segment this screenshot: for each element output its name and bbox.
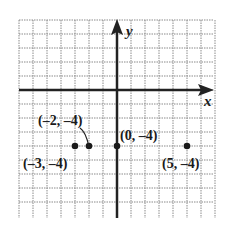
y-axis-label: y <box>124 23 133 39</box>
point-label-0: (0, –4) <box>120 128 158 144</box>
point-label-5: (5, –4) <box>162 156 200 172</box>
data-point <box>184 143 191 150</box>
point-label-neg3: (–3, –4) <box>23 156 68 172</box>
data-point <box>72 143 79 150</box>
x-axis-label: x <box>203 93 212 109</box>
coordinate-plane: x y (–2, –4) (0, –4) (–3, –4) (5, –4) <box>0 0 227 226</box>
data-point <box>114 143 121 150</box>
point-label-neg2: (–2, –4) <box>38 113 83 129</box>
